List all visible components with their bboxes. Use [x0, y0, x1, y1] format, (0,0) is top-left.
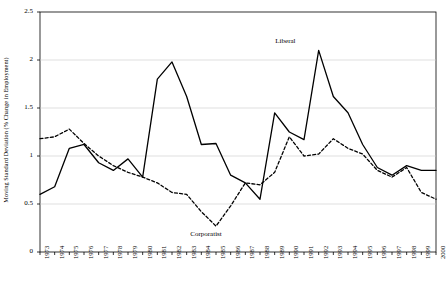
x-tick-label: 1999 [424, 246, 431, 259]
x-tick-label: 1987 [248, 246, 255, 259]
x-tick-label: 1981 [160, 246, 167, 259]
x-tick-label: 1996 [380, 246, 387, 259]
x-tick-label: 1989 [278, 246, 285, 259]
series-line-corporatist [40, 129, 436, 226]
y-tick-label: 0 [15, 247, 33, 255]
y-tick-label: 2 [15, 55, 33, 63]
x-tick-label: 1995 [366, 246, 373, 259]
x-tick-label: 1990 [292, 246, 299, 259]
x-tick-label: 1984 [204, 246, 211, 259]
x-tick-label: 1979 [131, 246, 138, 259]
x-tick-label: 1982 [175, 246, 182, 259]
x-tick-label: 1997 [395, 246, 402, 259]
x-tick-label: 1993 [336, 246, 343, 259]
x-tick-label: 1977 [102, 246, 109, 259]
x-tick-label: 1992 [322, 246, 329, 259]
x-tick-label: 1986 [234, 246, 241, 259]
y-tick-label: 0.5 [15, 199, 33, 207]
x-tick-label: 1974 [58, 246, 65, 259]
x-tick-label: 1978 [116, 246, 123, 259]
x-tick-label: 1973 [43, 246, 50, 259]
x-tick-label: 1998 [410, 246, 417, 259]
x-tick-label: 1994 [351, 246, 358, 259]
corporatist-label: Corporatist [190, 230, 222, 238]
liberal-label: Liberal [275, 37, 295, 45]
x-tick-label: 1980 [146, 246, 153, 259]
y-tick-label: 1 [15, 151, 33, 159]
plot-frame [40, 12, 436, 252]
x-tick-label: 1976 [87, 246, 94, 259]
x-tick-label: 1991 [307, 246, 314, 259]
x-tick-label: 1975 [72, 246, 79, 259]
x-tick-label: 2000 [439, 246, 446, 259]
x-tick-label: 1983 [190, 246, 197, 259]
x-tick-label: 1985 [219, 246, 226, 259]
y-tick-label: 1.5 [15, 103, 33, 111]
y-tick-label: 2.5 [15, 7, 33, 15]
x-tick-label: 1988 [263, 246, 270, 259]
series-line-liberal [40, 50, 436, 199]
